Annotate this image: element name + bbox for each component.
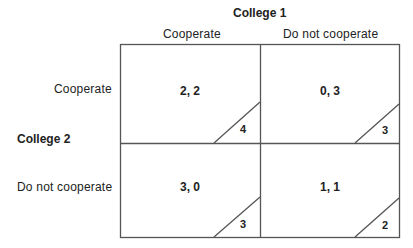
- diagonal-cell-1-2: [355, 104, 399, 143]
- cell-total-defect-defect: 2: [382, 219, 388, 231]
- diagonal-cell-2-1: [214, 197, 260, 237]
- cell-payoff-defect-defect: 1, 1: [300, 180, 360, 194]
- column-header-do-not-cooperate: Do not cooperate: [283, 27, 378, 41]
- row-header-cooperate: Cooperate: [54, 82, 110, 96]
- cell-total-defect-coop: 3: [240, 218, 246, 230]
- cell-payoff-defect-coop: 3, 0: [160, 180, 220, 194]
- diagonal-cell-1-1: [214, 102, 260, 143]
- row-header-do-not-cooperate: Do not cooperate: [17, 180, 112, 194]
- cell-total-coop-defect: 3: [382, 124, 388, 136]
- cell-payoff-coop-defect: 0, 3: [300, 84, 360, 98]
- diagonal-cell-2-2: [355, 198, 399, 237]
- cell-payoff-coop-coop: 2, 2: [160, 84, 220, 98]
- row-player-title: College 2: [17, 132, 70, 146]
- column-player-title: College 1: [233, 6, 286, 20]
- cell-total-coop-coop: 4: [240, 123, 246, 135]
- column-header-cooperate: Cooperate: [163, 27, 221, 41]
